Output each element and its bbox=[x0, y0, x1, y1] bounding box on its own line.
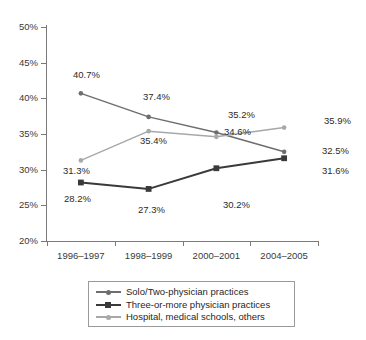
legend-item-3[interactable]: Hospital, medical schools, others bbox=[96, 311, 288, 324]
x-tick-mark bbox=[318, 241, 319, 246]
series-marker bbox=[282, 125, 287, 130]
series-marker bbox=[146, 129, 151, 134]
line-chart: 50%45%40%35%30%25%20% 1996–19971998–1999… bbox=[0, 0, 366, 340]
legend-marker-icon bbox=[96, 299, 121, 311]
series-marker bbox=[214, 130, 219, 135]
series-marker bbox=[213, 165, 219, 171]
series-marker bbox=[146, 115, 151, 120]
legend-label: Three-or-more physician practices bbox=[126, 300, 270, 310]
series-marker bbox=[78, 180, 84, 186]
series-line bbox=[81, 128, 284, 161]
x-category-label: 2000–2001 bbox=[183, 250, 251, 261]
legend-item-1[interactable]: Solo/Two-physician practices bbox=[96, 286, 288, 299]
series-line bbox=[81, 93, 284, 151]
legend-marker-icon bbox=[96, 286, 121, 298]
series-marker bbox=[79, 158, 84, 163]
x-category-label: 1998–1999 bbox=[115, 250, 183, 261]
data-label: 35.2% bbox=[228, 110, 255, 120]
data-label: 28.2% bbox=[64, 194, 91, 204]
series-2 bbox=[78, 155, 287, 191]
series-marker bbox=[281, 155, 287, 161]
data-label: 35.9% bbox=[324, 116, 351, 126]
legend-label: Solo/Two-physician practices bbox=[126, 287, 249, 297]
y-tick-label: 45% bbox=[4, 58, 38, 68]
x-tick-mark bbox=[250, 241, 251, 246]
legend-marker-icon bbox=[96, 311, 121, 323]
x-tick-mark bbox=[47, 241, 48, 246]
x-tick-mark bbox=[115, 241, 116, 246]
y-tick-label: 25% bbox=[4, 200, 38, 210]
data-label: 31.3% bbox=[63, 166, 90, 176]
data-label: 35.4% bbox=[140, 136, 167, 146]
series-1 bbox=[79, 91, 287, 154]
y-tick-mark bbox=[41, 170, 46, 171]
data-label: 30.2% bbox=[223, 200, 250, 210]
data-label: 34.6% bbox=[224, 127, 251, 137]
series-line bbox=[81, 158, 284, 189]
series-marker bbox=[214, 135, 219, 140]
y-tick-label: 35% bbox=[4, 129, 38, 139]
y-tick-label: 20% bbox=[4, 236, 38, 246]
data-label: 31.6% bbox=[322, 166, 349, 176]
x-category-label: 2004–2005 bbox=[250, 250, 318, 261]
series-marker bbox=[79, 91, 84, 96]
y-axis-line bbox=[46, 25, 47, 242]
series-marker bbox=[146, 186, 152, 192]
y-tick-mark bbox=[41, 98, 46, 99]
data-label: 27.3% bbox=[138, 205, 165, 215]
y-tick-mark bbox=[41, 134, 46, 135]
chart-legend: Solo/Two-physician practicesThree-or-mor… bbox=[88, 281, 295, 327]
y-tick-label: 50% bbox=[4, 22, 38, 32]
y-tick-label: 30% bbox=[4, 165, 38, 175]
legend-item-2[interactable]: Three-or-more physician practices bbox=[96, 299, 288, 312]
data-label: 32.5% bbox=[322, 146, 349, 156]
x-category-label: 1996–1997 bbox=[47, 250, 115, 261]
x-tick-mark bbox=[183, 241, 184, 246]
y-tick-mark bbox=[41, 241, 46, 242]
y-tick-mark bbox=[41, 205, 46, 206]
y-tick-mark bbox=[41, 27, 46, 28]
y-tick-mark bbox=[41, 63, 46, 64]
y-tick-label: 40% bbox=[4, 93, 38, 103]
data-label: 37.4% bbox=[143, 92, 170, 102]
legend-label: Hospital, medical schools, others bbox=[126, 312, 265, 322]
series-3 bbox=[79, 125, 287, 162]
series-marker bbox=[282, 150, 287, 155]
data-label: 40.7% bbox=[73, 70, 100, 80]
